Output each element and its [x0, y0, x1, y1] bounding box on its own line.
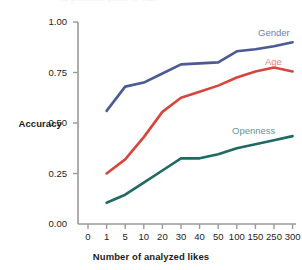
chart-figure: he predictive power of likes 0.000.250.5… [0, 0, 302, 270]
series-label-gender: Gender [258, 28, 290, 38]
series-label-age: Age [265, 57, 282, 67]
series-line-openness [107, 136, 293, 203]
x-tick-label: 300 [280, 232, 302, 242]
y-tick-label: 0.00 [33, 219, 67, 229]
series-line-gender [107, 42, 293, 111]
y-tick-label: 0.75 [33, 68, 67, 78]
series-label-openness: Openness [232, 126, 275, 136]
axes [78, 22, 296, 224]
y-tick-label: 0.25 [33, 169, 67, 179]
y-axis-title: Accuracy [6, 118, 62, 129]
y-tick-label: 1.00 [33, 17, 67, 27]
x-axis-title: Number of analyzed likes [0, 251, 302, 262]
